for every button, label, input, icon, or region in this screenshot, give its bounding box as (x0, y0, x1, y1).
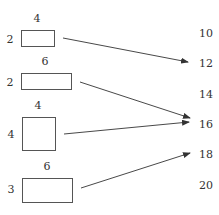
arrow-rect2-to-16 (80, 82, 190, 118)
value-18: 18 (199, 148, 213, 161)
rectangle-6x3: 6 3 (8, 160, 73, 203)
rectangle-4x4: 4 4 (8, 99, 56, 151)
rectangle-shape (22, 74, 72, 90)
width-label: 4 (34, 12, 41, 25)
mapping-diagram: 4 2 6 2 4 4 6 3 10 12 14 16 18 20 (0, 0, 219, 215)
value-10: 10 (199, 27, 213, 40)
height-label: 4 (8, 128, 15, 141)
codomain-values: 10 12 14 16 18 20 (199, 27, 213, 192)
height-label: 3 (8, 183, 15, 196)
width-label: 4 (35, 99, 42, 112)
value-12: 12 (199, 57, 213, 70)
arrow-rect3-to-16 (64, 122, 189, 134)
value-14: 14 (199, 88, 213, 101)
height-label: 2 (7, 76, 14, 89)
value-16: 16 (199, 118, 213, 131)
value-20: 20 (199, 179, 213, 192)
height-label: 2 (7, 33, 14, 46)
rectangle-shape (23, 118, 56, 151)
width-label: 6 (42, 55, 49, 68)
rectangle-shape (23, 179, 73, 203)
rectangle-6x2: 6 2 (7, 55, 72, 90)
width-label: 6 (44, 160, 51, 173)
rectangle-4x2: 4 2 (7, 12, 55, 47)
rectangle-shape (22, 31, 55, 47)
arrow-rect4-to-18 (81, 153, 190, 188)
arrow-rect1-to-12 (63, 38, 188, 62)
